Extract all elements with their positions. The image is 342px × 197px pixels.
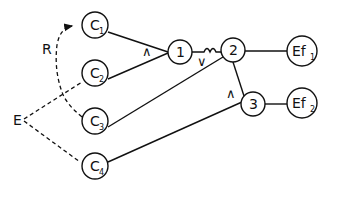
label-r: R [42, 41, 52, 57]
label-ef2-sub: 2 [310, 105, 315, 114]
label-c4-sub: 4 [99, 168, 104, 177]
and-operator-1: ∧ [142, 44, 152, 59]
label-ef1: Ef [292, 43, 307, 59]
or-operator-2: ∨ [197, 54, 207, 69]
edge-e-c2 [24, 82, 82, 119]
label-n1: 1 [176, 44, 185, 60]
label-ef2: Ef [292, 95, 307, 111]
edge-c4-n3 [108, 102, 242, 162]
dashed-edges [24, 26, 82, 162]
and-operator-3: ∧ [226, 86, 236, 101]
edge-n1-n2 [192, 49, 221, 53]
label-n2: 2 [229, 42, 238, 58]
label-n3: 3 [249, 96, 258, 112]
label-c3-sub: 3 [99, 123, 104, 132]
label-e: E [13, 112, 22, 128]
edge-e-c4 [24, 121, 80, 162]
edge-c1-n1 [108, 32, 168, 52]
edge-r-relation [56, 26, 82, 117]
label-c1-sub: 1 [99, 27, 104, 36]
label-c2-sub: 2 [99, 75, 104, 84]
label-ef1-sub: 1 [310, 53, 315, 62]
causal-diagram: C 1 C 2 C 3 C 4 1 2 3 Ef 1 Ef 2 ∧ ∨ ∧ R … [0, 0, 342, 197]
edge-c2-n1 [108, 53, 168, 79]
